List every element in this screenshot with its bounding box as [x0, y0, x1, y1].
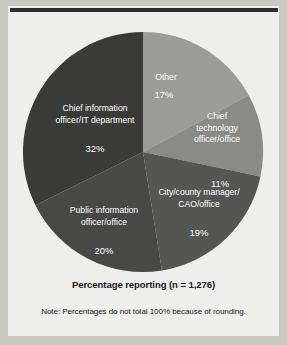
pie-slice-value: 20% [95, 245, 114, 256]
pie-slice-label: Chief informationofficer/IT department [56, 103, 136, 125]
pie-slice-label: Other [155, 72, 177, 82]
pie-chart: Other17%Chieftechnologyofficer/office11%… [0, 0, 287, 285]
pie-slice-value: 19% [190, 227, 209, 238]
chart-footnote: Note: Percentages do not total 100% beca… [8, 307, 279, 316]
figure-root: Other17%Chieftechnologyofficer/office11%… [0, 0, 287, 345]
chart-caption: Percentage reporting (n = 1,276) [8, 279, 279, 290]
pie-slices-group [23, 32, 263, 272]
pie-chart-svg: Other17%Chieftechnologyofficer/office11%… [0, 0, 287, 285]
pie-slice-value: 17% [155, 89, 174, 100]
pie-slice-value: 32% [86, 143, 105, 154]
